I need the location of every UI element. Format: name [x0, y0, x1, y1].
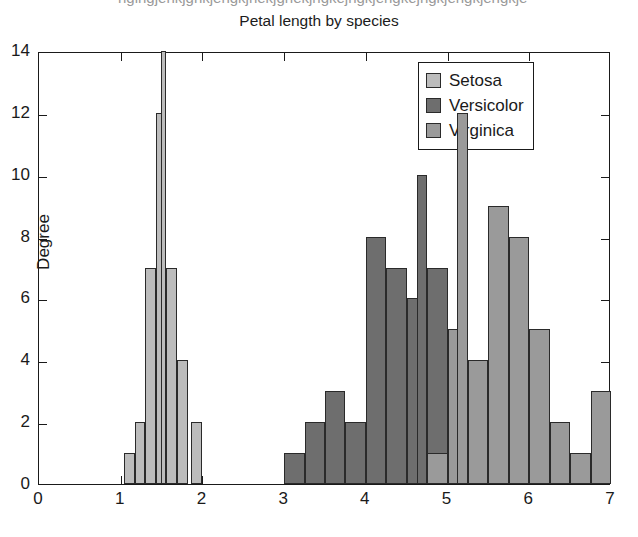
x-tick-label: 6	[508, 489, 548, 509]
x-axis-tick	[284, 53, 285, 61]
legend-item: Setosa	[426, 68, 524, 93]
histogram-bar	[284, 453, 304, 484]
x-axis-tick	[202, 53, 203, 61]
histogram-bar	[345, 422, 365, 484]
x-tick-label: 7	[590, 489, 630, 509]
legend-item: Versicolor	[426, 93, 524, 118]
histogram-bar	[509, 237, 529, 484]
cut-off-header-text: hgihgjehkjghkjehgkjhekjghekjhgkejhgkjehg…	[0, 0, 638, 10]
x-axis-tick	[366, 53, 367, 61]
histogram-bar	[177, 360, 188, 484]
y-axis-tick	[601, 115, 609, 116]
y-axis-tick	[601, 177, 609, 178]
chart-canvas: hgihgjehkjghkjehgkjhekjghekjhgkejhgkjehg…	[0, 0, 638, 537]
y-tick-label: 8	[0, 227, 30, 247]
x-tick-label: 2	[181, 489, 221, 509]
histogram-bar	[468, 360, 488, 484]
histogram-bar	[366, 237, 386, 484]
histogram-bar	[570, 453, 590, 484]
histogram-bar	[191, 422, 202, 484]
legend: SetosaVersicolorVirginica	[418, 62, 534, 150]
x-tick-label: 4	[345, 489, 385, 509]
x-tick-label: 3	[263, 489, 303, 509]
x-axis-tick	[202, 476, 203, 484]
histogram-bar	[325, 391, 345, 484]
legend-item-label: Versicolor	[449, 97, 524, 114]
histogram-bar	[417, 175, 428, 484]
y-tick-label: 4	[0, 350, 30, 370]
y-axis-tick	[39, 362, 47, 363]
x-tick-label: 5	[427, 489, 467, 509]
legend-item-label: Setosa	[449, 72, 502, 89]
x-axis-tick	[121, 53, 122, 61]
y-axis-title: Degree	[34, 182, 54, 302]
y-tick-label: 0	[0, 474, 30, 494]
histogram-bar	[145, 268, 156, 485]
y-tick-label: 14	[0, 41, 30, 61]
histogram-bar	[135, 422, 146, 484]
x-axis-tick	[121, 476, 122, 484]
histogram-bar	[427, 268, 447, 485]
histogram-bar	[166, 268, 177, 485]
x-tick-label: 1	[100, 489, 140, 509]
histogram-bar	[124, 453, 135, 484]
legend-swatch-icon	[426, 98, 441, 113]
y-axis-tick	[601, 239, 609, 240]
histogram-bar	[591, 391, 611, 484]
x-axis-tick	[529, 53, 530, 61]
y-axis-tick	[39, 424, 47, 425]
y-tick-label: 10	[0, 165, 30, 185]
chart-title: Petal length by species	[0, 12, 638, 30]
y-axis-tick	[601, 300, 609, 301]
histogram-bar	[386, 268, 406, 485]
x-axis-tick	[448, 53, 449, 61]
histogram-bar	[427, 453, 447, 484]
legend-swatch-icon	[426, 73, 441, 88]
histogram-bar	[529, 329, 549, 484]
y-tick-label: 6	[0, 288, 30, 308]
y-axis-tick	[601, 362, 609, 363]
histogram-bar	[488, 206, 508, 484]
legend-item: Virginica	[426, 118, 524, 143]
y-axis-tick	[39, 177, 47, 178]
histogram-bar	[305, 422, 325, 484]
y-tick-label: 12	[0, 103, 30, 123]
cut-off-header-label: hgihgjehkjghkjehgkjhekjghekjhgkejhgkjehg…	[118, 0, 527, 6]
legend-swatch-icon	[426, 123, 441, 138]
histogram-bar	[550, 422, 570, 484]
y-tick-label: 2	[0, 412, 30, 432]
y-axis-tick	[39, 115, 47, 116]
histogram-bar	[457, 113, 468, 484]
